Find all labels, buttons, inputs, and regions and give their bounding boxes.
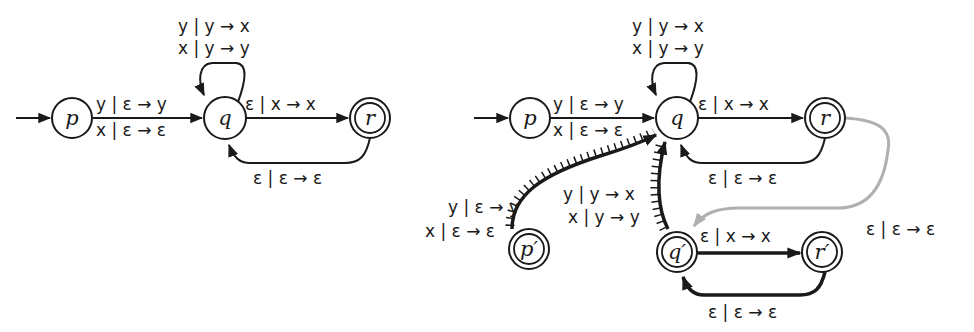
state-r-prime: r′ [802, 232, 842, 272]
edge-p-q-label-1: y | ε → y [96, 94, 167, 114]
edge-qprime-rprime-label: ε | x → x [700, 226, 771, 246]
state-q-label: q [218, 106, 231, 130]
state-r-right: r [805, 98, 845, 138]
state-q-right-label: q [670, 106, 683, 130]
state-p-prime-label: p′ [520, 237, 538, 261]
edge-p-q-label-2: x | ε → ε [96, 120, 166, 140]
right-automaton: y | ε → y x | ε → ε y | y → x x | y → y … [425, 16, 935, 322]
edge-q-r-right-label: ε | x → x [698, 94, 769, 114]
edge-q-loop-right [652, 63, 696, 102]
edge-q-loop-label-1: y | y → x [178, 16, 250, 36]
state-p-prime: p′ [509, 229, 549, 269]
state-q-prime: q′ [657, 232, 697, 272]
edge-qprime-q-label-1: y | y → x [563, 184, 635, 204]
left-automaton: y | ε → y x | ε → ε y | y → x x | y → y … [16, 16, 390, 188]
state-p-left: p [52, 98, 92, 138]
edge-p-q-right-label-2: x | ε → ε [553, 120, 623, 140]
edge-p-q-right-label-1: y | ε → y [553, 94, 624, 114]
edge-r-q-right [681, 138, 825, 163]
state-q-right: q [656, 97, 698, 139]
state-p-right: p [510, 98, 550, 138]
state-q-left: q [204, 97, 246, 139]
edge-pprime-q-label-1: y | ε → y [448, 197, 519, 217]
edge-q-loop-right-label-2: x | y → y [632, 38, 704, 58]
state-p-right-label: p [523, 106, 536, 130]
edge-r-q-left [229, 138, 370, 163]
edge-pprime-q-label-2: x | ε → ε [425, 221, 495, 241]
edge-q-loop-label-2: x | y → y [178, 38, 250, 58]
edge-rprime-qprime-label: ε | ε → ε [708, 302, 777, 322]
edge-r-qprime-label: ε | ε → ε [866, 219, 935, 239]
edge-q-loop-left [200, 63, 244, 102]
edge-r-q-right-label: ε | ε → ε [708, 168, 777, 188]
edge-q-r-label: ε | x → x [245, 94, 316, 114]
edge-rprime-qprime [683, 272, 825, 295]
automata-diagram: y | ε → y x | ε → ε y | y → x x | y → y … [0, 0, 974, 332]
state-r-left: r [350, 98, 390, 138]
edge-qprime-q-label-2: x | y → y [568, 207, 640, 227]
state-r-prime-label: r′ [815, 240, 830, 264]
edge-r-q-label: ε | ε → ε [253, 168, 322, 188]
state-q-prime-label: q′ [668, 240, 686, 264]
edge-qprime-q [659, 142, 668, 229]
edge-q-loop-right-label-1: y | y → x [632, 16, 704, 36]
state-p-label: p [65, 106, 78, 130]
